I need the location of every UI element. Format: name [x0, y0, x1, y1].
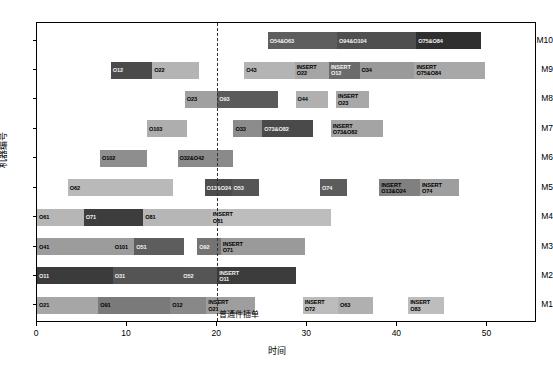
- gantt-bar-label: INSERT O72: [305, 299, 325, 312]
- gantt-bar: INSERT O74: [420, 179, 459, 196]
- gantt-bar-label: O43: [246, 67, 256, 73]
- gantt-bar: O101: [113, 238, 135, 255]
- gantt-bar-label: O52: [183, 273, 193, 279]
- gantt-bar-label: O103: [149, 126, 162, 132]
- gantt-bar: INSERT O83: [408, 297, 444, 314]
- gantt-bar-label: O44: [298, 96, 308, 102]
- x-tick-label: 10: [121, 328, 130, 338]
- gantt-bar-label: O63: [340, 302, 350, 308]
- gantt-bar: O93: [217, 91, 278, 108]
- insert-annotation-label: 普通件插单: [219, 308, 259, 319]
- gantt-bar: O31: [113, 267, 181, 284]
- insert-event-line: [217, 23, 218, 321]
- gantt-bar: O74: [320, 179, 347, 196]
- gantt-bar: O11: [37, 267, 113, 284]
- gantt-bar: O91: [98, 297, 170, 314]
- gantt-bar-label: O102: [102, 155, 115, 161]
- x-tick-label: 50: [482, 328, 491, 338]
- gantt-bar: O94&O104: [337, 32, 416, 49]
- gantt-bar: INSERT O73&O82: [331, 120, 383, 137]
- gantt-bar: O81: [143, 209, 211, 226]
- gantt-bar-label: O73&O82: [264, 126, 289, 132]
- gantt-bar: INSERT O13&O24: [379, 179, 420, 196]
- gantt-bar: O21: [37, 297, 98, 314]
- x-tick-mark: [36, 322, 37, 326]
- gantt-bar: O43: [244, 62, 294, 79]
- x-axis-title: 时间: [0, 344, 553, 357]
- gantt-bar-label: O41: [39, 243, 49, 249]
- gantt-bar-label: INSERT O22: [297, 64, 317, 77]
- gantt-bar: O53: [232, 179, 259, 196]
- gantt-bar: O63: [338, 297, 373, 314]
- gantt-bar: INSERT O71: [221, 238, 305, 255]
- gantt-bar-label: O75&O84: [418, 37, 443, 43]
- y-axis-title: 机器编号: [0, 105, 9, 195]
- gantt-bar-label: O53: [234, 184, 244, 190]
- gantt-bar-label: INSERT O74: [422, 181, 442, 194]
- gantt-bar-label: O93: [219, 96, 229, 102]
- gantt-bar-label: INSERT O12: [331, 64, 351, 77]
- x-tick-mark: [306, 322, 307, 326]
- gantt-bar: O23: [185, 91, 217, 108]
- gantt-bar: INSERT O72: [303, 297, 338, 314]
- gantt-bar: O33: [233, 120, 262, 137]
- gantt-bar-label: O34: [362, 67, 372, 73]
- gantt-bar-label: O94&O104: [339, 37, 367, 43]
- gantt-bar: INSERT O81: [211, 209, 331, 226]
- gantt-bar: INSERT O22: [295, 62, 329, 79]
- gantt-bar: O12: [111, 62, 152, 79]
- x-tick-label: 0: [34, 328, 39, 338]
- gantt-bar: O32&O42: [178, 150, 234, 167]
- x-tick-mark: [126, 322, 127, 326]
- plot-area: O54&O63O94&O104O75&O84O12O22O43INSERT O2…: [36, 22, 536, 322]
- gantt-bar-label: O11: [39, 273, 49, 279]
- gantt-bar-label: O54&O63: [270, 37, 295, 43]
- gantt-bar: INSERT O23: [336, 91, 368, 108]
- gantt-bar-label: O62: [70, 184, 80, 190]
- gantt-bar-label: O71: [86, 214, 96, 220]
- gantt-bar-label: O32&O42: [180, 155, 205, 161]
- gantt-bar-label: O101: [115, 243, 128, 249]
- gantt-bar: O52: [181, 267, 217, 284]
- gantt-bar: O62: [68, 179, 173, 196]
- gantt-bar-label: INSERT O81: [213, 211, 233, 224]
- x-tick-label: 20: [211, 328, 220, 338]
- gantt-bar: O22: [152, 62, 199, 79]
- gantt-bar: INSERT O75&O84: [414, 62, 484, 79]
- gantt-bar: O71: [84, 209, 143, 226]
- gantt-bar: O12: [170, 297, 206, 314]
- gantt-bar: O34: [360, 62, 415, 79]
- gantt-bar: O75&O84: [416, 32, 481, 49]
- gantt-bar: INSERT O11: [217, 267, 296, 284]
- gantt-bar-label: O13&O24: [207, 184, 232, 190]
- gantt-bar-label: INSERT O11: [219, 270, 239, 283]
- gantt-bar-label: O61: [39, 214, 49, 220]
- gantt-bar-label: INSERT O75&O84: [416, 64, 441, 77]
- gantt-bar-label: O21: [39, 302, 49, 308]
- x-tick-label: 40: [392, 328, 401, 338]
- gantt-bar: INSERT O12: [329, 62, 360, 79]
- gantt-chart: 机器编号 M1M2M3M4M5M6M7M8M9M10 O54&O63O94&O1…: [0, 0, 553, 366]
- gantt-bar: O73&O82: [262, 120, 312, 137]
- gantt-bar-label: O74: [322, 184, 332, 190]
- x-tick-mark: [486, 322, 487, 326]
- gantt-bar-label: O33: [235, 126, 245, 132]
- x-tick-label: 30: [302, 328, 311, 338]
- gantt-bar: O102: [100, 150, 147, 167]
- gantt-bar-label: O92: [199, 243, 209, 249]
- gantt-bar-label: O22: [154, 67, 164, 73]
- gantt-bar-label: INSERT O71: [223, 240, 243, 253]
- gantt-bar-label: INSERT O23: [338, 93, 358, 106]
- gantt-bar-label: O12: [172, 302, 182, 308]
- gantt-bar: O54&O63: [268, 32, 337, 49]
- gantt-bar-label: O23: [187, 96, 197, 102]
- gantt-bar-label: INSERT O83: [410, 299, 430, 312]
- x-tick-mark: [216, 322, 217, 326]
- gantt-bar: O44: [296, 91, 328, 108]
- gantt-bar: O51: [134, 238, 184, 255]
- gantt-bar-label: O51: [136, 243, 146, 249]
- gantt-bar-label: O31: [115, 273, 125, 279]
- gantt-bar: O41: [37, 238, 113, 255]
- gantt-bar-label: INSERT O73&O82: [333, 122, 358, 135]
- gantt-bar-label: INSERT O13&O24: [381, 181, 406, 194]
